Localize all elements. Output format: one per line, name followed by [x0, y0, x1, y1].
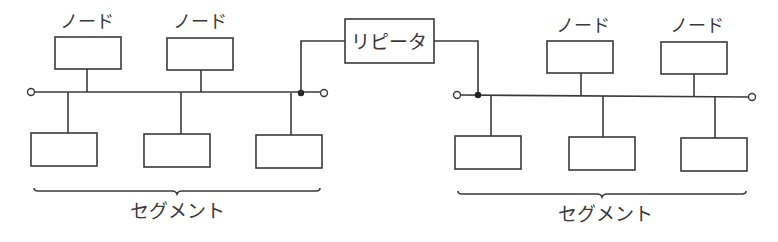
terminator-icon: [749, 94, 756, 101]
segment-left: ノード ノード セグメント: [28, 11, 328, 222]
segment-label: セグメント: [558, 203, 653, 225]
node-label: ノード: [173, 11, 227, 32]
repeater-link-right: [434, 41, 478, 95]
segment-label: セグメント: [130, 200, 225, 222]
junction-dot-icon: [475, 92, 481, 98]
terminator-icon: [28, 89, 35, 96]
segment-brace: [458, 191, 746, 197]
node-box: [681, 138, 747, 171]
terminator-icon: [321, 90, 328, 97]
node-label: ノード: [60, 11, 114, 32]
node-box: [55, 37, 121, 69]
repeater: リピータ: [301, 19, 478, 95]
node-box: [569, 137, 635, 170]
node-box: [256, 135, 322, 168]
node-label: ノード: [670, 15, 724, 36]
segment-right: ノード ノード セグメント: [454, 15, 756, 225]
node-box: [455, 136, 521, 169]
segment-brace: [34, 188, 320, 194]
bus-line: [460, 95, 748, 97]
node-box: [547, 41, 613, 73]
repeater-label: リピータ: [351, 31, 427, 53]
node-box: [167, 38, 233, 70]
terminator-icon: [454, 92, 461, 99]
repeater-link-left: [301, 41, 345, 93]
node-box: [661, 42, 727, 74]
node-box: [144, 134, 210, 167]
node-box: [31, 133, 97, 166]
node-label: ノード: [556, 15, 610, 36]
network-diagram: ノード ノード セグメント リピータ ノード ノード: [0, 0, 778, 242]
